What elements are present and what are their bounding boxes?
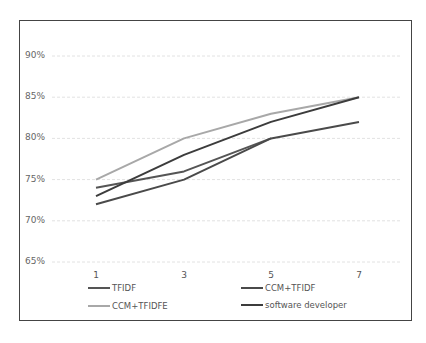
- legend-label: CCM+TFIDF: [265, 283, 315, 293]
- legend-label: CCM+TFIDFE: [112, 301, 168, 311]
- x-tick-label: 1: [86, 270, 106, 280]
- x-tick-label: 3: [174, 270, 194, 280]
- legend-swatch: [241, 287, 263, 289]
- y-tick-label: 90%: [25, 50, 55, 60]
- legend-swatch: [88, 287, 110, 289]
- x-tick-label: 5: [261, 270, 281, 280]
- series-line-ccm-tfidf: [96, 122, 359, 204]
- y-tick-label: 70%: [25, 215, 55, 225]
- legend-item-ccm-tfidfe: CCM+TFIDFE: [88, 301, 168, 311]
- y-tick-label: 65%: [25, 256, 55, 266]
- legend-label: TFIDF: [112, 283, 136, 293]
- legend-swatch: [241, 304, 263, 307]
- series-lines: [96, 97, 359, 204]
- y-tick-label: 85%: [25, 91, 55, 101]
- legend-item-software-developer: software developer: [241, 300, 347, 310]
- plot-area: [0, 0, 426, 343]
- y-tick-label: 80%: [25, 132, 55, 142]
- x-tick-label: 7: [349, 270, 369, 280]
- legend-item-tfidf: TFIDF: [88, 283, 136, 293]
- legend-swatch: [88, 305, 110, 307]
- y-tick-label: 75%: [25, 174, 55, 184]
- legend-label: software developer: [265, 300, 347, 310]
- legend-item-ccm-tfidf: CCM+TFIDF: [241, 283, 315, 293]
